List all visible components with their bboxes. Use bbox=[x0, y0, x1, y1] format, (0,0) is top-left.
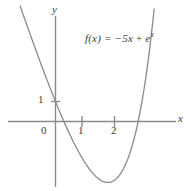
equation-annotation: f(x) = −5x + ex bbox=[85, 33, 154, 44]
origin-tick-label: 0 bbox=[41, 125, 47, 136]
equation-plus: + bbox=[133, 32, 145, 44]
function-plot-figure: y x 0 1 2 1 f(x) = −5x + ex bbox=[0, 0, 192, 191]
y-tick-label-1: 1 bbox=[38, 94, 44, 105]
y-axis-label: y bbox=[52, 4, 57, 15]
plot-canvas bbox=[0, 0, 192, 191]
x-axis-label: x bbox=[178, 113, 183, 124]
equation-lhs: f(x) = bbox=[85, 32, 115, 44]
x-tick-label-2: 2 bbox=[111, 125, 117, 136]
equation-exponent: x bbox=[150, 30, 154, 39]
equation-linear-term: −5x bbox=[115, 32, 133, 44]
x-tick-label-1: 1 bbox=[78, 125, 84, 136]
